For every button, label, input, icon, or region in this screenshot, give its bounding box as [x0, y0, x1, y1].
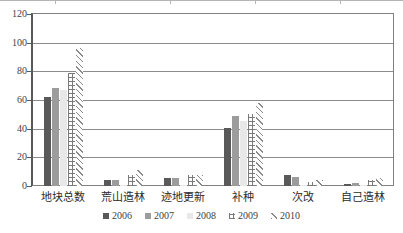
legend-label: 2010 — [280, 211, 300, 221]
x-tick-label: 迹地更新 — [153, 190, 213, 204]
bar-2006 — [164, 178, 171, 186]
y-axis-labels: 020406080100120 — [0, 0, 27, 233]
bar-2007 — [292, 177, 299, 186]
top-rule-tick — [55, 0, 56, 4]
chart-legend: 20062007200820092010 — [0, 211, 403, 221]
bar-2006 — [284, 175, 291, 186]
bar-group — [333, 14, 393, 186]
bar-2006 — [224, 128, 231, 186]
bar-2006 — [344, 184, 351, 186]
bar-2010 — [316, 180, 323, 186]
bar-2007 — [112, 180, 119, 186]
bar-groups — [33, 14, 393, 186]
legend-label: 2008 — [196, 211, 216, 221]
legend-swatch-icon-2006 — [103, 213, 109, 219]
bar-2008 — [180, 185, 187, 186]
x-tick-label: 次改 — [273, 190, 333, 204]
legend-label: 2007 — [154, 211, 174, 221]
bar-2009 — [188, 175, 195, 186]
legend-label: 2009 — [238, 211, 258, 221]
y-tick-mark-120 — [27, 14, 31, 15]
bar-2008 — [60, 90, 67, 186]
legend-item-2009[interactable]: 2009 — [229, 211, 258, 221]
legend-item-2007[interactable]: 2007 — [145, 211, 174, 221]
y-tick-mark-60 — [27, 100, 31, 101]
bar-2006 — [44, 97, 51, 186]
bar-2008 — [120, 185, 127, 186]
y-tick-mark-0 — [27, 186, 31, 187]
legend-item-2006[interactable]: 2006 — [103, 211, 132, 221]
bar-2010 — [196, 175, 203, 186]
bar-2007 — [352, 183, 359, 186]
bar-group — [213, 14, 273, 186]
x-tick-label: 补种 — [213, 190, 273, 204]
legend-swatch-icon-2009 — [229, 213, 235, 219]
bar-2009 — [128, 175, 135, 186]
bar-2010 — [76, 48, 83, 186]
bar-2008 — [240, 121, 247, 186]
y-tick-mark-40 — [27, 129, 31, 130]
bar-2008 — [360, 185, 367, 186]
y-tick-mark-100 — [27, 43, 31, 44]
bar-2006 — [104, 180, 111, 186]
y-tick-label-20: 20 — [1, 152, 27, 162]
bar-2008 — [300, 185, 307, 186]
bar-chart: 020406080100120 地块总数荒山造林迹地更新补种次改自己造林 200… — [0, 0, 403, 233]
y-tick-label-0: 0 — [1, 181, 27, 191]
bar-2007 — [172, 178, 179, 186]
legend-item-2010[interactable]: 2010 — [271, 211, 300, 221]
x-tick-label: 自己造林 — [333, 190, 393, 204]
bar-2007 — [232, 116, 239, 186]
x-tick-label: 地块总数 — [33, 190, 93, 204]
bar-2009 — [308, 182, 315, 186]
top-rule-tick — [255, 0, 256, 4]
bar-2010 — [256, 103, 263, 186]
bar-group — [93, 14, 153, 186]
x-tick-label: 荒山造林 — [93, 190, 153, 204]
bar-2009 — [248, 114, 255, 186]
top-rule-tick — [340, 0, 341, 4]
bar-2009 — [68, 73, 75, 186]
legend-swatch-icon-2008 — [187, 213, 193, 219]
y-tick-label-40: 40 — [1, 124, 27, 134]
bar-group — [153, 14, 213, 186]
y-tick-label-80: 80 — [1, 66, 27, 76]
legend-swatch-icon-2007 — [145, 213, 151, 219]
bar-group — [33, 14, 93, 186]
bar-2010 — [136, 170, 143, 186]
bar-2009 — [368, 180, 375, 186]
legend-item-2008[interactable]: 2008 — [187, 211, 216, 221]
legend-label: 2006 — [112, 211, 132, 221]
legend-swatch-icon-2010 — [271, 213, 277, 219]
bar-2007 — [52, 88, 59, 186]
y-tick-mark-20 — [27, 157, 31, 158]
bar-group — [273, 14, 333, 186]
y-tick-label-60: 60 — [1, 95, 27, 105]
top-rule-tick — [170, 0, 171, 4]
bar-2010 — [376, 178, 383, 186]
y-tick-mark-80 — [27, 71, 31, 72]
x-axis-labels: 地块总数荒山造林迹地更新补种次改自己造林 — [33, 190, 393, 208]
y-tick-label-120: 120 — [1, 9, 27, 19]
y-tick-label-100: 100 — [1, 38, 27, 48]
top-border-rule — [0, 0, 403, 1]
